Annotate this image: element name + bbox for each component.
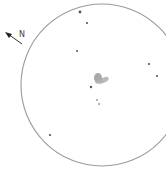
star	[156, 75, 158, 77]
star	[86, 22, 88, 24]
star	[76, 50, 78, 52]
nebula	[94, 73, 110, 84]
star	[49, 134, 51, 136]
star	[79, 11, 82, 14]
north-label: N	[19, 30, 25, 39]
eyepiece-sketch	[0, 0, 166, 170]
star-field	[49, 11, 158, 136]
star	[148, 63, 150, 65]
star	[90, 86, 92, 88]
field-of-view-circle	[21, 4, 166, 166]
star	[96, 99, 98, 101]
star	[98, 103, 100, 105]
